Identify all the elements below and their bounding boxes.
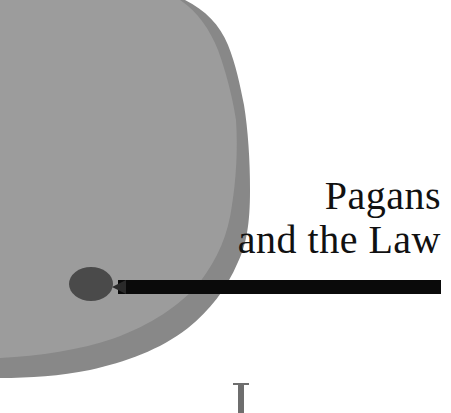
- title-line-2: and the Law: [238, 218, 441, 262]
- title-line-1: Pagans: [238, 174, 441, 218]
- horizontal-bar: [118, 280, 441, 294]
- oval-knob: [69, 267, 113, 301]
- drop-cap-letter: [238, 383, 244, 413]
- chapter-title: Pagans and the Law: [238, 174, 441, 262]
